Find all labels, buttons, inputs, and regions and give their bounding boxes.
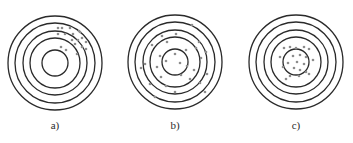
hit-dot	[57, 33, 60, 36]
hit-dot	[279, 56, 282, 59]
hit-dot	[161, 35, 164, 38]
hit-dot	[165, 85, 168, 88]
hit-dot	[64, 33, 67, 36]
hit-dot	[144, 63, 147, 66]
hit-dot	[140, 67, 143, 70]
hit-dot	[160, 76, 163, 79]
hit-dot	[57, 27, 60, 30]
hit-dot	[305, 56, 308, 59]
target-ring	[128, 15, 222, 109]
target-ring	[8, 16, 102, 110]
hit-dot	[287, 62, 290, 65]
hit-dot	[295, 47, 298, 50]
hit-dot	[299, 54, 302, 57]
hit-dot	[285, 78, 288, 81]
hit-dot	[154, 96, 157, 99]
hit-dot	[159, 55, 162, 58]
hit-dot	[186, 65, 189, 68]
hit-dot	[206, 73, 209, 76]
target-ring	[30, 38, 80, 88]
target-b	[128, 15, 222, 109]
hit-dot	[289, 46, 292, 49]
hit-dot	[79, 31, 82, 34]
hit-dot	[312, 59, 315, 62]
target-ring	[150, 37, 200, 87]
hit-dot	[292, 55, 295, 58]
hit-dot	[77, 39, 80, 42]
hit-dot	[180, 74, 183, 77]
hit-dot	[189, 78, 192, 81]
hit-dot	[60, 46, 63, 49]
hit-dot	[191, 24, 194, 27]
hit-dot	[200, 57, 203, 60]
hit-dot	[283, 47, 286, 50]
hit-dot	[185, 49, 188, 52]
label-b: b)	[160, 119, 190, 131]
hit-dot	[156, 66, 159, 69]
hit-dot	[205, 51, 208, 54]
hit-dot	[151, 44, 154, 47]
hit-dot	[299, 69, 302, 72]
label-a: a)	[40, 119, 70, 131]
hit-dot	[165, 60, 168, 63]
hit-dot	[174, 91, 177, 94]
hit-dot	[308, 48, 311, 51]
hit-dot	[61, 27, 64, 30]
hit-dot	[175, 33, 178, 36]
target-ring	[42, 50, 68, 76]
hit-dot	[72, 33, 75, 36]
hit-dot	[282, 66, 285, 69]
hit-dot	[149, 83, 152, 86]
hit-dot	[74, 43, 77, 46]
hit-dot	[193, 69, 196, 72]
target-c	[249, 15, 343, 109]
hit-dot	[298, 75, 301, 78]
hit-dot	[65, 49, 68, 52]
hit-dot	[198, 41, 201, 44]
hit-dot	[76, 53, 79, 56]
hit-dot	[71, 39, 74, 42]
hit-dot	[293, 67, 296, 70]
hit-dot	[296, 61, 299, 64]
hit-dot	[305, 71, 308, 74]
hit-dot	[289, 75, 292, 78]
hit-dot	[81, 37, 84, 40]
hit-dot	[81, 46, 84, 49]
hit-dot	[179, 62, 182, 65]
label-c: c)	[281, 119, 311, 131]
hit-dot	[308, 73, 311, 76]
hit-dot	[69, 27, 72, 30]
hit-dot	[174, 53, 177, 56]
hit-dot	[303, 46, 306, 49]
target-ring	[143, 30, 207, 94]
hit-dot	[166, 41, 169, 44]
hit-dot	[204, 91, 207, 94]
hit-dot	[199, 82, 202, 85]
hit-dot	[85, 48, 88, 51]
hit-dot	[85, 41, 88, 44]
target-a	[8, 16, 102, 110]
target-ring	[15, 23, 95, 103]
hit-dot	[303, 63, 306, 66]
hit-dot	[195, 47, 198, 50]
